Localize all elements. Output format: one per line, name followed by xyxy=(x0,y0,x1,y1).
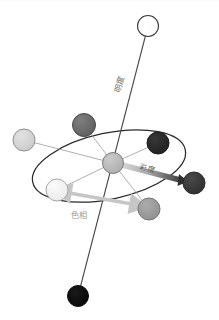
point-black-pole xyxy=(68,286,89,307)
point-center-gray xyxy=(103,153,124,174)
point-hue-palest-left xyxy=(46,179,68,201)
chroma-axis-label: 彩度 xyxy=(138,161,157,175)
color-solid-diagram: 明度 色相 彩度 xyxy=(0,0,219,320)
top-divider xyxy=(0,0,219,1)
point-hue-dark-top xyxy=(73,114,96,137)
hue-axis-label: 色相 xyxy=(71,210,88,220)
point-hue-darkest-right xyxy=(147,132,169,154)
point-hue-dark-far-right xyxy=(183,172,205,194)
hue-sample-circles xyxy=(13,114,205,221)
color-solid-figure: 明度 色相 彩度 xyxy=(0,0,219,320)
point-hue-light-left xyxy=(13,129,35,151)
point-hue-mid-bottom xyxy=(138,198,160,220)
point-white-pole xyxy=(138,16,159,37)
value-axis-label: 明度 xyxy=(112,75,126,94)
spoke-to-light-left xyxy=(24,140,113,163)
